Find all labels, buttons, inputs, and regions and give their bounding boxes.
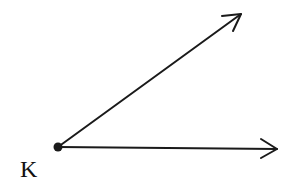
horizontal-ray: [58, 147, 277, 149]
angle-diagram: K: [0, 0, 291, 193]
vertex-label: K: [20, 156, 38, 182]
upper-ray: [58, 14, 241, 147]
vertex-point: [54, 143, 63, 152]
